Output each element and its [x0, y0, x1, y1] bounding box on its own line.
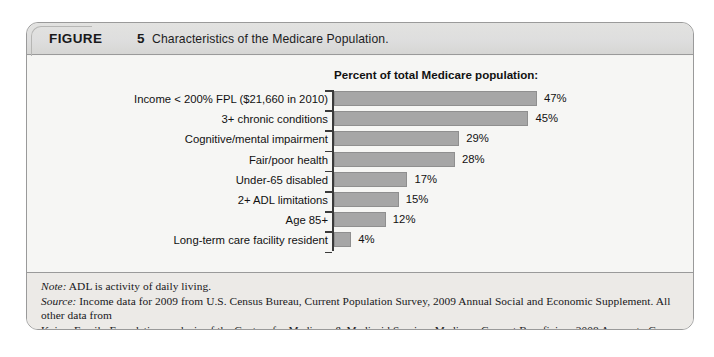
axis-tick	[325, 191, 332, 193]
chart-title: Percent of total Medicare population:	[334, 68, 538, 81]
figure-label: FIGURE	[49, 31, 102, 46]
bar-category-label: Income < 200% FPL ($21,660 in 2010)	[134, 93, 328, 105]
bar	[334, 111, 528, 126]
figure-number: 5	[137, 31, 145, 46]
bar-row: 2+ ADL limitations15%	[27, 191, 693, 211]
bar-value-label: 45%	[535, 112, 558, 124]
axis-tick	[325, 211, 332, 213]
bar	[334, 212, 386, 227]
source-line-2: Kaiser Family Foundation analysis of the…	[41, 323, 679, 331]
bar-value-label: 47%	[544, 92, 567, 104]
bar-row: Long-term care facility resident4%	[27, 231, 693, 251]
bar	[334, 91, 537, 106]
bar-category-label: Age 85+	[286, 214, 328, 226]
axis-tick	[325, 171, 332, 173]
bar-row: 3+ chronic conditions45%	[27, 110, 693, 130]
bar-value-label: 4%	[358, 233, 374, 245]
axis-tick	[325, 231, 332, 233]
bar-value-label: 17%	[414, 173, 437, 185]
source-text-1: Income data for 2009 from U.S. Census Bu…	[41, 295, 670, 322]
axis-tick	[325, 252, 332, 254]
bar	[334, 152, 455, 167]
source-lead: Source:	[41, 295, 76, 307]
chart-body: Percent of total Medicare population: In…	[27, 56, 693, 272]
bar-value-label: 29%	[466, 132, 489, 144]
bar	[334, 172, 407, 187]
axis-tick	[325, 110, 332, 112]
bar-value-label: 28%	[462, 153, 485, 165]
note-text: ADL is activity of daily living.	[67, 280, 212, 292]
bar-category-label: Long-term care facility resident	[174, 234, 328, 246]
axis-tick	[325, 90, 332, 92]
bar-chart-plot-area: Income < 200% FPL ($21,660 in 2010)47%3+…	[27, 90, 693, 260]
source-line-1: Source: Income data for 2009 from U.S. C…	[41, 294, 679, 323]
bar-value-label: 15%	[406, 193, 429, 205]
figure-header-band: FIGURE 5 Characteristics of the Medicare…	[27, 23, 693, 55]
source-text-2: Kaiser Family Foundation analysis of the…	[41, 324, 670, 331]
bar-row: Age 85+12%	[27, 211, 693, 231]
bar	[334, 131, 459, 146]
bar-category-label: Under-65 disabled	[236, 174, 328, 186]
figure-panel: FIGURE 5 Characteristics of the Medicare…	[26, 22, 694, 330]
bar	[334, 192, 399, 207]
bar-row: Cognitive/mental impairment29%	[27, 130, 693, 150]
axis-tick	[325, 130, 332, 132]
bar-row: Fair/poor health28%	[27, 151, 693, 171]
notes-area: Note: ADL is activity of daily living. S…	[27, 273, 693, 330]
figure-caption: Characteristics of the Medicare Populati…	[152, 32, 389, 46]
bar	[334, 232, 351, 247]
bar-category-label: 2+ ADL limitations	[238, 194, 328, 206]
bar-category-label: Cognitive/mental impairment	[185, 133, 328, 145]
axis-tick	[325, 151, 332, 153]
note-lead: Note:	[41, 280, 67, 292]
bar-category-label: Fair/poor health	[249, 154, 328, 166]
note-line: Note: ADL is activity of daily living.	[41, 279, 679, 294]
bar-row: Income < 200% FPL ($21,660 in 2010)47%	[27, 90, 693, 110]
bar-row: Under-65 disabled17%	[27, 171, 693, 191]
bar-category-label: 3+ chronic conditions	[222, 113, 328, 125]
bar-value-label: 12%	[393, 213, 416, 225]
